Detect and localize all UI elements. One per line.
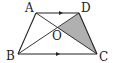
label-o: O: [52, 29, 62, 43]
label-d: D: [81, 1, 91, 15]
parallel-arrow-ad-icon: [59, 11, 63, 15]
label-c: C: [99, 50, 108, 63]
shaded-triangle-odc: [58, 13, 98, 54]
trapezoid-diagram: A D O B C: [0, 0, 114, 63]
label-a: A: [24, 1, 34, 15]
label-b: B: [6, 49, 15, 63]
parallel-arrow-bc-icon: [56, 52, 60, 56]
